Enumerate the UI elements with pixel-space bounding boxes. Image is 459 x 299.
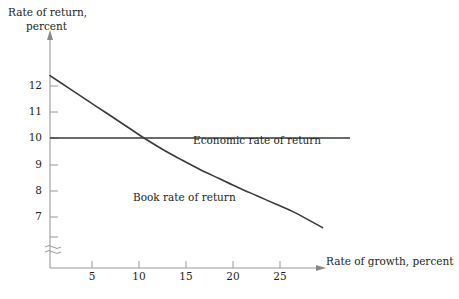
chart-container: Rate of return, percent Rate of growth, … — [0, 0, 459, 299]
y-axis-title-line1: Rate of return, — [8, 6, 87, 18]
series-line-book-rate-of-return — [50, 76, 323, 228]
y-axis — [47, 30, 53, 268]
x-axis-title: Rate of growth, percent — [326, 255, 453, 267]
y-tick-label-9: 9 — [14, 158, 42, 170]
x-tick-label-20: 20 — [219, 270, 247, 282]
x-axis-arrow-icon — [316, 265, 326, 271]
y-tick-label-8: 8 — [14, 184, 42, 196]
series-label-book-rate-of-return: Book rate of return — [133, 191, 236, 203]
x-tick-label-15: 15 — [172, 270, 200, 282]
x-tick-label-5: 5 — [78, 270, 106, 282]
x-tick-label-25: 25 — [266, 270, 294, 282]
y-tick-label-12: 12 — [14, 79, 42, 91]
y-axis-break-icon — [45, 246, 61, 254]
x-tick-label-10: 10 — [125, 270, 153, 282]
x-tick-marks — [92, 261, 280, 268]
y-axis-title-line2: percent — [26, 20, 67, 32]
y-tick-marks — [50, 86, 58, 237]
y-tick-label-7: 7 — [14, 210, 42, 222]
y-tick-label-11: 11 — [14, 105, 42, 117]
series-label-economic-rate-of-return: Economic rate of return — [193, 134, 321, 146]
y-tick-label-10: 10 — [14, 131, 42, 143]
